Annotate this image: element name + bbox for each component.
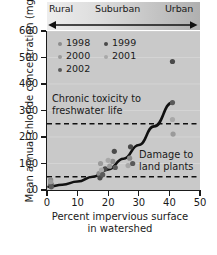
x-axis-title-line1: Percent impervious surface — [30, 211, 210, 223]
annotation-chronic-toxicity: Chronic toxicity to freshwater life — [52, 93, 141, 116]
legend-dot-1998 — [58, 42, 62, 46]
legend-label-2000: 2000 — [66, 50, 90, 61]
y-axis-line — [46, 31, 47, 191]
data-point-2001 — [106, 158, 111, 163]
y-tick-mark — [41, 136, 46, 137]
legend-dot-1999 — [104, 42, 108, 46]
y-tick-mark — [41, 83, 46, 84]
y-tick-mark — [41, 189, 46, 190]
data-point-2001 — [125, 163, 130, 168]
legend-dot-2001 — [104, 55, 108, 59]
data-point-2002 — [130, 161, 135, 166]
legend-label-2002: 2002 — [66, 63, 90, 74]
x-tick-mark — [108, 191, 109, 196]
legend-dot-2002 — [58, 68, 62, 72]
y-tick-mark — [41, 30, 46, 31]
legend-label-2001: 2001 — [112, 50, 136, 61]
legend-dot-2000 — [58, 55, 62, 59]
x-tick-mark — [77, 191, 78, 196]
data-point-2000 — [48, 179, 53, 184]
legend: 1998 1999 2000 2001 2002 — [56, 36, 152, 78]
x-axis-title-line2: in watershed — [30, 223, 210, 235]
x-tick-label: 10 — [68, 197, 88, 208]
data-point-2000 — [98, 161, 103, 166]
x-tick-mark — [199, 191, 200, 196]
data-point-2000 — [107, 164, 112, 169]
x-axis-line — [46, 190, 201, 191]
x-tick-label: 20 — [98, 197, 118, 208]
y-tick-mark — [41, 110, 46, 111]
y-tick-mark — [41, 57, 46, 58]
land-use-band: Rural Suburban Urban — [47, 2, 200, 30]
data-point-1999 — [170, 59, 175, 64]
data-point-1998 — [110, 159, 115, 164]
x-axis-title: Percent impervious surface in watershed — [30, 211, 210, 235]
legend-label-1998: 1998 — [66, 37, 90, 48]
data-point-1998 — [127, 156, 132, 161]
band-label-rural: Rural — [49, 3, 73, 14]
plot-area: 1998 1999 2000 2001 2002 Chronic toxicit… — [47, 31, 200, 190]
data-point-2000 — [170, 131, 175, 136]
data-point-2002 — [100, 172, 105, 177]
annotation-damage-line1: Damage to — [139, 149, 193, 161]
y-tick-mark — [41, 163, 46, 164]
data-point-2002 — [170, 100, 175, 105]
annotation-chronic-line2: freshwater life — [52, 105, 141, 117]
data-point-2002 — [113, 165, 118, 170]
y-axis-title: Mean annual chloride concentration (mg/L… — [24, 13, 35, 203]
x-tick-label: 30 — [129, 197, 149, 208]
legend-label-1999: 1999 — [112, 37, 136, 48]
x-tick-mark — [46, 191, 47, 196]
x-tick-label: 50 — [190, 197, 210, 208]
chart-figure: Rural Suburban Urban 1998 — [0, 0, 217, 255]
data-point-2001 — [99, 168, 104, 173]
x-tick-mark — [169, 191, 170, 196]
data-point-2002 — [49, 184, 54, 189]
data-point-1999 — [128, 144, 133, 149]
x-tick-label: 40 — [159, 197, 179, 208]
annotation-damage-line2: land plants — [139, 161, 193, 173]
band-label-suburban: Suburban — [95, 3, 140, 14]
band-label-urban: Urban — [165, 3, 193, 14]
data-point-2001 — [170, 117, 175, 122]
double-arrow-icon — [47, 20, 200, 30]
data-point-1999 — [112, 149, 117, 154]
x-tick-label: 0 — [37, 197, 57, 208]
annotation-chronic-line1: Chronic toxicity to — [52, 93, 141, 105]
x-tick-mark — [138, 191, 139, 196]
annotation-land-plant-damage: Damage to land plants — [139, 149, 193, 172]
